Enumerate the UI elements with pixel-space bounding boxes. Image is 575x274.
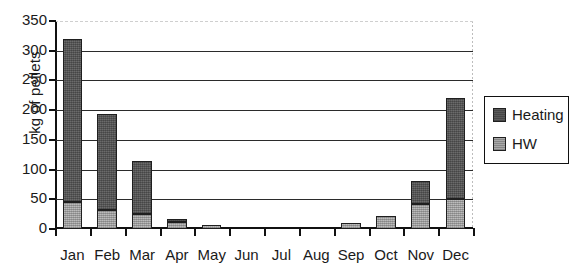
bar-apr xyxy=(167,21,187,229)
y-tick-label-0: 0 xyxy=(3,219,47,236)
bar-segment-mar-heating xyxy=(132,161,152,214)
bar-segment-dec-hw xyxy=(446,199,466,229)
bar-jun xyxy=(237,21,257,229)
x-tick-label-jan: Jan xyxy=(55,246,90,263)
plot-area xyxy=(55,21,473,229)
legend-label-hw: HW xyxy=(512,135,537,152)
bar-segment-apr-hw xyxy=(167,222,187,229)
bar-sep xyxy=(341,21,361,229)
bar-nov xyxy=(411,21,431,229)
x-tick-2 xyxy=(125,228,127,236)
x-tick-9 xyxy=(369,228,371,236)
bar-may xyxy=(202,21,222,229)
bar-mar xyxy=(132,21,152,229)
x-tick-8 xyxy=(334,228,336,236)
x-tick-label-aug: Aug xyxy=(299,246,334,263)
x-tick-label-jul: Jul xyxy=(264,246,299,263)
x-tick-11 xyxy=(438,228,440,236)
x-tick-0 xyxy=(55,228,57,236)
legend-item-heating: Heating xyxy=(493,106,564,123)
y-tick-label-100: 100 xyxy=(3,160,47,177)
x-tick-12 xyxy=(473,228,475,236)
bar-aug xyxy=(306,21,326,229)
legend-swatch-heating-icon xyxy=(493,108,506,122)
bar-series-group xyxy=(55,21,473,229)
x-tick-label-apr: Apr xyxy=(160,246,195,263)
x-tick-4 xyxy=(194,228,196,236)
y-tick-label-200: 200 xyxy=(3,100,47,117)
bar-segment-may-hw xyxy=(202,225,222,229)
bar-oct xyxy=(376,21,396,229)
bar-segment-jan-hw xyxy=(63,202,83,229)
x-tick-label-may: May xyxy=(194,246,229,263)
legend-label-heating: Heating xyxy=(512,106,564,123)
bar-dec xyxy=(446,21,466,229)
pellet-consumption-chart: kg of pellets 050100150200250300350 JanF… xyxy=(0,0,575,274)
bar-segment-oct-hw xyxy=(376,216,396,229)
x-tick-label-mar: Mar xyxy=(125,246,160,263)
y-tick-label-50: 50 xyxy=(3,189,47,206)
bar-feb xyxy=(97,21,117,229)
x-tick-label-nov: Nov xyxy=(403,246,438,263)
y-tick-label-250: 250 xyxy=(3,70,47,87)
legend-swatch-hw-icon xyxy=(493,137,506,151)
x-tick-5 xyxy=(229,228,231,236)
bar-segment-nov-hw xyxy=(411,204,431,229)
bar-jan xyxy=(63,21,83,229)
x-tick-label-feb: Feb xyxy=(90,246,125,263)
x-tick-6 xyxy=(264,228,266,236)
y-tick-label-300: 300 xyxy=(3,41,47,58)
y-tick-label-350: 350 xyxy=(3,11,47,28)
x-axis-tick-labels: JanFebMarAprMayJunJulAugSepOctNovDec xyxy=(55,246,473,270)
bar-segment-nov-heating xyxy=(411,181,431,204)
y-axis-title: kg of pellets xyxy=(26,13,43,173)
x-tick-7 xyxy=(299,228,301,236)
x-tick-label-dec: Dec xyxy=(438,246,473,263)
legend-item-hw: HW xyxy=(493,135,537,152)
bar-segment-apr-heating xyxy=(167,219,187,222)
y-tick-label-150: 150 xyxy=(3,130,47,147)
bar-segment-mar-hw xyxy=(132,214,152,229)
bar-segment-jan-heating xyxy=(63,39,83,202)
x-tick-1 xyxy=(90,228,92,236)
chart-legend: Heating HW xyxy=(484,96,569,164)
bar-jul xyxy=(272,21,292,229)
x-tick-label-sep: Sep xyxy=(334,246,369,263)
x-tick-label-oct: Oct xyxy=(369,246,404,263)
bar-segment-dec-heating xyxy=(446,98,466,199)
bar-segment-sep-hw xyxy=(341,223,361,229)
x-tick-10 xyxy=(403,228,405,236)
x-tick-3 xyxy=(160,228,162,236)
bar-segment-feb-hw xyxy=(97,210,117,229)
x-tick-label-jun: Jun xyxy=(229,246,264,263)
bar-segment-feb-heating xyxy=(97,114,117,210)
